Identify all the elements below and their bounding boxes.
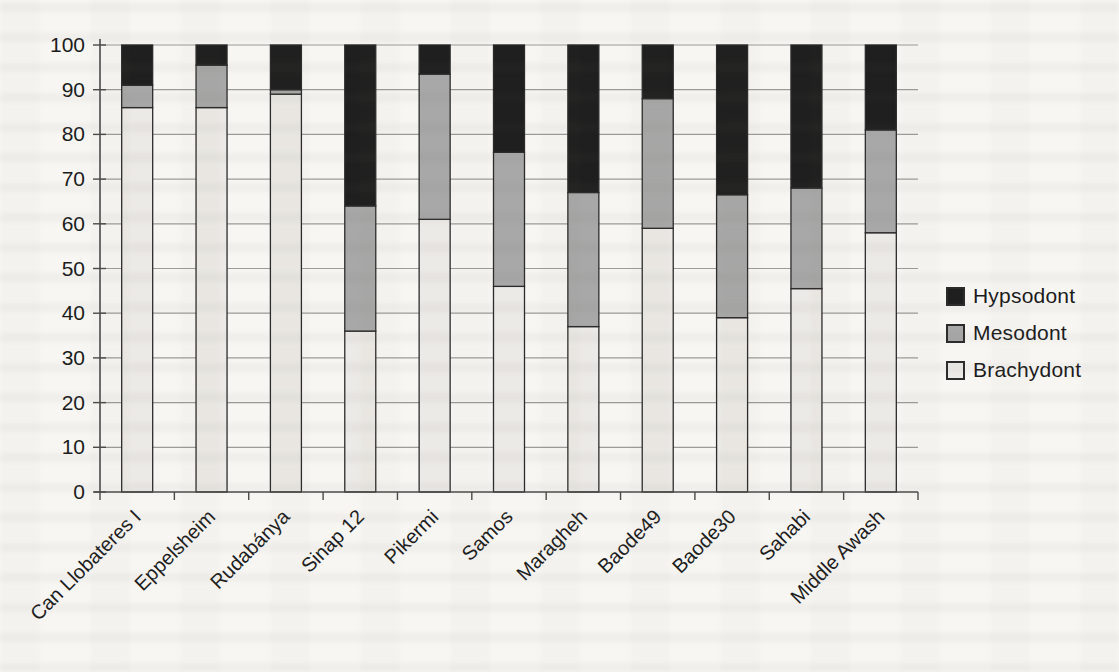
x-axis-category-label: Samos bbox=[457, 505, 517, 565]
legend-item-brachydont: Brachydont bbox=[946, 358, 1081, 382]
bar-segment-brachydont bbox=[122, 108, 153, 492]
bar-segment-brachydont bbox=[494, 286, 525, 492]
bar-segment-brachydont bbox=[568, 327, 599, 492]
x-axis-category-label: Can Llobateres I bbox=[26, 505, 145, 624]
bar-segment-brachydont bbox=[791, 289, 822, 492]
bar-segment-mesodont bbox=[196, 65, 227, 107]
bar-segment-mesodont bbox=[122, 85, 153, 107]
x-axis-category-label: Baode49 bbox=[593, 505, 665, 577]
x-axis-category-label: Sahabi bbox=[755, 505, 815, 565]
bar-segment-hypsodont bbox=[865, 45, 896, 130]
chart-legend: Hypsodont Mesodont Brachydont bbox=[946, 284, 1081, 382]
bar-segment-mesodont bbox=[419, 74, 450, 219]
bar-segment-mesodont bbox=[865, 130, 896, 233]
y-axis-tick-label: 90 bbox=[62, 78, 85, 101]
bar-segment-mesodont bbox=[494, 152, 525, 286]
hypsodont-swatch-icon bbox=[946, 287, 965, 306]
bar-segment-hypsodont bbox=[642, 45, 673, 99]
legend-label: Mesodont bbox=[973, 321, 1067, 345]
x-axis-category-label: Sinap 12 bbox=[297, 505, 368, 576]
bar-segment-brachydont bbox=[196, 108, 227, 492]
bar-segment-mesodont bbox=[791, 188, 822, 289]
bar-segment-hypsodont bbox=[791, 45, 822, 188]
bar-segment-hypsodont bbox=[122, 45, 153, 85]
bar-segment-mesodont bbox=[642, 99, 673, 229]
bar-segment-mesodont bbox=[568, 193, 599, 327]
legend-label: Brachydont bbox=[973, 358, 1081, 382]
x-axis-category-label: Eppelsheim bbox=[130, 505, 219, 594]
bar-segment-hypsodont bbox=[270, 45, 301, 90]
bar-segment-brachydont bbox=[717, 318, 748, 492]
legend-item-hypsodont: Hypsodont bbox=[946, 284, 1081, 308]
legend-label: Hypsodont bbox=[973, 284, 1075, 308]
y-axis-tick-label: 80 bbox=[62, 122, 85, 145]
y-axis-tick-label: 30 bbox=[62, 346, 85, 369]
y-axis-tick-label: 20 bbox=[62, 391, 85, 414]
bar-segment-mesodont bbox=[717, 195, 748, 318]
bar-segment-mesodont bbox=[345, 206, 376, 331]
bar-segment-mesodont bbox=[270, 90, 301, 94]
bar-segment-brachydont bbox=[345, 331, 376, 492]
mesodont-swatch-icon bbox=[946, 324, 965, 343]
x-axis-category-label: Pikermi bbox=[380, 505, 443, 568]
bar-segment-brachydont bbox=[419, 219, 450, 492]
bar-segment-hypsodont bbox=[568, 45, 599, 193]
y-axis-tick-label: 60 bbox=[62, 212, 85, 235]
y-axis-tick-label: 0 bbox=[73, 480, 85, 503]
y-axis-tick-label: 70 bbox=[62, 167, 85, 190]
legend-item-mesodont: Mesodont bbox=[946, 321, 1081, 345]
bar-segment-hypsodont bbox=[196, 45, 227, 65]
y-axis-tick-label: 100 bbox=[50, 33, 85, 56]
bar-segment-brachydont bbox=[865, 233, 896, 492]
bar-segment-hypsodont bbox=[419, 45, 450, 74]
scanned-page: 0102030405060708090100Can Llobateres IEp… bbox=[0, 0, 1119, 672]
bar-segment-brachydont bbox=[642, 228, 673, 492]
x-axis-category-label: Maragheh bbox=[512, 505, 591, 584]
bar-segment-brachydont bbox=[270, 94, 301, 492]
x-axis-category-label: Rudabánya bbox=[206, 505, 295, 594]
bar-segment-hypsodont bbox=[345, 45, 376, 206]
bar-segment-hypsodont bbox=[494, 45, 525, 152]
bar-segment-hypsodont bbox=[717, 45, 748, 195]
brachydont-swatch-icon bbox=[946, 361, 965, 380]
y-axis-tick-label: 10 bbox=[62, 435, 85, 458]
y-axis-tick-label: 40 bbox=[62, 301, 85, 324]
x-axis-category-label: Baode30 bbox=[668, 505, 740, 577]
y-axis-tick-label: 50 bbox=[62, 257, 85, 280]
